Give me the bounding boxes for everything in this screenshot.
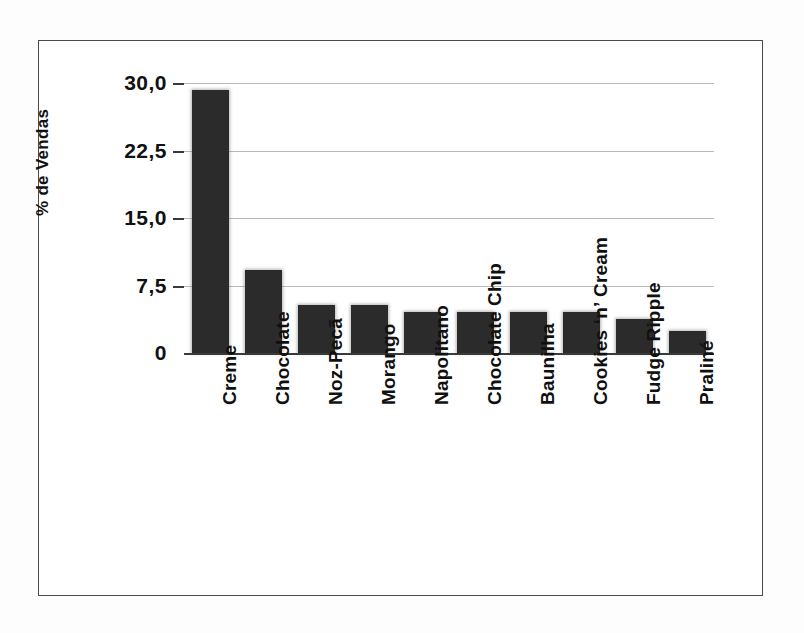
x-tick-label: Cookies ‘n’ Cream: [590, 237, 612, 405]
y-tick-label: 7,5: [75, 274, 167, 298]
y-tick-label: 0: [75, 341, 167, 365]
chart-figure: % de Vendas 30,022,515,07,50 CremeChocol…: [0, 0, 804, 633]
y-tick-mark: [173, 218, 184, 220]
y-tick-mark: [173, 151, 184, 153]
y-tick-mark: [173, 286, 184, 288]
y-tick-label: 15,0: [75, 206, 167, 230]
y-tick-label: 22,5: [75, 139, 167, 163]
x-tick-label: Napolitano: [431, 305, 453, 405]
x-axis-labels: CremeChocolateNoz-PecãMorangoNapolitanoC…: [184, 83, 714, 353]
y-axis-title: % de Vendas: [33, 109, 53, 216]
x-tick-label: Praliné: [696, 340, 718, 405]
x-tick-label: Noz-Pecã: [325, 318, 347, 405]
chart-frame: % de Vendas 30,022,515,07,50 CremeChocol…: [38, 40, 763, 596]
x-tick-label: Morango: [378, 323, 400, 405]
x-tick-label: Creme: [219, 345, 241, 405]
x-tick-label: Chocolate Chip: [484, 263, 506, 405]
x-tick-label: Baunilha: [537, 323, 559, 405]
x-tick-label: Fudge Ripple: [643, 282, 665, 405]
y-tick-mark: [173, 83, 184, 85]
x-tick-label: Chocolate: [272, 311, 294, 405]
y-tick-label: 30,0: [75, 71, 167, 95]
